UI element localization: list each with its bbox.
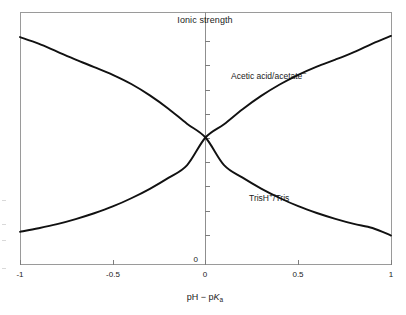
y-tick-mark [205, 114, 210, 115]
y-tick-mark [205, 211, 210, 212]
x-axis-label-subscript: a [220, 296, 224, 303]
y-tick-mark [205, 235, 210, 236]
page-edge-artifact [2, 240, 6, 241]
y-tick-mark [205, 65, 210, 66]
series-label-tris: TrisH+/Tris [249, 192, 289, 203]
series-label-tris-suffix: /Tris [273, 193, 289, 203]
ionic-strength-chart: Ionic strength 0.09 0.08 0.07 0.06 0.05 … [0, 0, 406, 315]
x-axis-label-prefix: pH − p [187, 292, 214, 302]
y-tick-mark [205, 162, 210, 163]
y-tick-mark [205, 90, 210, 91]
x-tick-label: 1 [389, 270, 393, 279]
x-tick-label: 0 [203, 270, 207, 279]
x-tick-mark [391, 260, 392, 265]
y-tick-mark [205, 138, 210, 139]
y-tick-mark [205, 41, 210, 42]
series-label-acetic-charge: − [302, 70, 306, 77]
x-tick-label: -1 [16, 270, 23, 279]
y-tick-mark [205, 186, 210, 187]
x-axis-label: pH − pKa [187, 292, 223, 303]
series-label-acetic-text: Acetic acid/acetate [231, 71, 302, 81]
x-tick-label: -0.5 [106, 270, 120, 279]
series-label-tris-prefix: TrisH [249, 193, 269, 203]
x-tick-mark [205, 260, 206, 265]
x-tick-label: 0.5 [292, 270, 303, 279]
x-tick-mark [298, 260, 299, 265]
chart-title: Ionic strength [177, 15, 232, 25]
page-edge-artifact [2, 224, 6, 225]
series-label-acetic-acid: Acetic acid/acetate− [231, 70, 306, 81]
page-edge-artifact [2, 200, 6, 201]
x-tick-mark [20, 260, 21, 265]
y-axis-zero-label: 0 [194, 254, 198, 263]
page-edge-artifact [2, 268, 6, 269]
x-tick-mark [113, 260, 114, 265]
